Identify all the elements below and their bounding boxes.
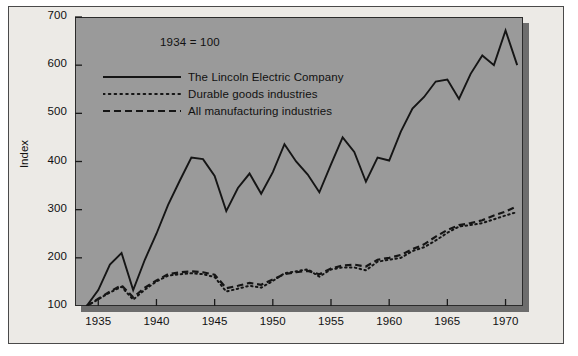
legend-label-all-manufacturing: All manufacturing industries bbox=[188, 105, 332, 117]
x-tick-label: 1955 bbox=[311, 315, 351, 327]
legend-label-lincoln-electric: The Lincoln Electric Company bbox=[188, 71, 344, 83]
y-tick-label: 200 bbox=[33, 250, 67, 262]
legend-key-dotted-icon bbox=[103, 88, 181, 100]
chart-legend: The Lincoln Electric Company Durable goo… bbox=[103, 68, 344, 119]
legend-key-solid-icon bbox=[103, 71, 181, 83]
base-year-annotation: 1934 = 100 bbox=[160, 36, 220, 48]
y-tick-label: 500 bbox=[33, 105, 67, 117]
x-tick-label: 1940 bbox=[136, 315, 176, 327]
legend-item-durable-goods: Durable goods industries bbox=[103, 85, 344, 102]
y-tick-label: 100 bbox=[33, 298, 67, 310]
x-tick-label: 1965 bbox=[427, 315, 467, 327]
x-tick-label: 1950 bbox=[253, 315, 293, 327]
series-line-2 bbox=[87, 206, 518, 306]
legend-key-dashed-icon bbox=[103, 105, 181, 117]
x-tick-label: 1970 bbox=[486, 315, 526, 327]
y-tick-label: 700 bbox=[33, 9, 67, 21]
y-tick-label: 400 bbox=[33, 154, 67, 166]
legend-item-lincoln-electric: The Lincoln Electric Company bbox=[103, 68, 344, 85]
y-axis-title: Index bbox=[18, 124, 30, 184]
series-line-1 bbox=[87, 212, 518, 306]
chart-figure: 100200300400500600700 193519401945195019… bbox=[0, 0, 578, 356]
legend-label-durable-goods: Durable goods industries bbox=[188, 88, 318, 100]
x-tick-label: 1945 bbox=[195, 315, 235, 327]
plot-series-layer bbox=[75, 17, 523, 306]
y-tick-label: 600 bbox=[33, 57, 67, 69]
x-tick-label: 1935 bbox=[78, 315, 118, 327]
x-tick-label: 1960 bbox=[369, 315, 409, 327]
legend-item-all-manufacturing: All manufacturing industries bbox=[103, 102, 344, 119]
y-tick-label: 300 bbox=[33, 202, 67, 214]
